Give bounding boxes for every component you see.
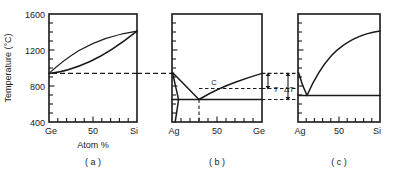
panel-a-xlabel-right: Si — [130, 126, 138, 136]
t-measure-arrow — [266, 73, 271, 90]
panel-c-x-ticks — [306, 117, 372, 123]
panel-c-liquidus-ag-side — [299, 73, 308, 96]
panel-c-frame — [298, 14, 380, 122]
annotation-label-delta-t: ΔT — [284, 85, 294, 94]
panel-c: Ag 50 Si ( c ) — [294, 14, 381, 167]
panel-b: C Ag 50 Ge ( b ) — [168, 14, 265, 167]
panel-c-liquidus-si-side — [307, 31, 380, 95]
y-tick-labels: 1600 1200 800 400 — [25, 10, 45, 128]
panel-b-liquidus-ge-side — [199, 73, 262, 99]
panel-b-xlabel-mid: 50 — [212, 126, 222, 136]
panel-a-x-ticks — [58, 117, 128, 123]
panel-c-y-ticks — [298, 23, 304, 113]
x-axis-label: Atom % — [77, 140, 109, 150]
panel-a-xlabel-left: Ge — [45, 126, 57, 136]
panel-b-x-ticks — [181, 117, 253, 123]
y-tick-label-1200: 1200 — [25, 46, 45, 56]
y-axis-label: Temperature (°C) — [3, 33, 13, 102]
panel-a-caption: ( a ) — [85, 157, 101, 167]
y-axis-label-group: Temperature (°C) — [3, 33, 13, 102]
panel-b-point-label-c: C — [211, 78, 217, 87]
phase-diagram-figure: Temperature (°C) 1600 1200 800 400 — [0, 0, 395, 172]
annotation-block-t-delta-t: T ΔT — [262, 73, 296, 101]
panel-a: Ge 50 Si Atom % ( a ) — [45, 14, 138, 167]
annotation-label-t: T — [274, 85, 279, 94]
panel-a-frame — [49, 14, 137, 122]
panel-b-solid-solution-boundary — [175, 100, 178, 123]
panel-b-frame — [172, 14, 262, 122]
panel-a-y-ticks — [49, 23, 55, 113]
panel-c-xlabel-mid: 50 — [334, 126, 344, 136]
panel-b-xlabel-left: Ag — [168, 126, 179, 136]
panel-a-liquidus-curve — [49, 31, 137, 73]
y-tick-label-400: 400 — [30, 118, 45, 128]
panel-b-xlabel-right: Ge — [253, 126, 265, 136]
y-tick-label-1600: 1600 — [25, 10, 45, 20]
panel-c-xlabel-right: Si — [373, 126, 381, 136]
panel-c-xlabel-left: Ag — [294, 126, 305, 136]
panel-a-xlabel-mid: 50 — [88, 126, 98, 136]
panel-a-solidus-curve — [49, 31, 137, 73]
panel-b-caption: ( b ) — [209, 157, 225, 167]
figure-svg: Temperature (°C) 1600 1200 800 400 — [0, 0, 395, 172]
panel-c-caption: ( c ) — [331, 157, 347, 167]
y-tick-label-800: 800 — [30, 82, 45, 92]
